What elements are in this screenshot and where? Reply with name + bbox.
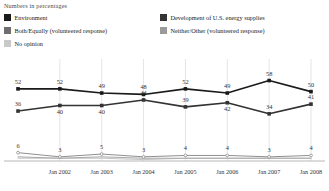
- data-label: 41: [308, 93, 314, 100]
- data-label: 3: [142, 146, 145, 153]
- data-label: 52: [182, 78, 188, 85]
- line-chart-svg: 5252494852495850364040443942344163534434: [0, 57, 329, 167]
- legend-row-1: Environment Development of U.S. energy s…: [4, 14, 325, 27]
- legend-swatch-development: [160, 14, 167, 21]
- x-axis-tick-label: Jan 2005: [174, 168, 196, 175]
- x-axis-tick-label: Jan 2003: [91, 168, 113, 175]
- legend-label-no-opinion: No opinion: [15, 40, 44, 47]
- plot-area: 5252494852495850364040443942344163534434: [0, 57, 329, 167]
- data-label: 49: [224, 82, 230, 89]
- data-label: 3: [58, 146, 61, 153]
- data-label: 52: [57, 78, 63, 85]
- legend-label-both-equally: Both/Equally (volunteered response): [15, 27, 108, 34]
- x-axis-tick-label: Jan 2002: [49, 168, 71, 175]
- x-axis-tick-label: Jan 2007: [258, 168, 280, 175]
- data-label: 49: [99, 82, 105, 89]
- legend-item-both-equally[interactable]: Both/Equally (volunteered response): [4, 27, 160, 34]
- legend-item-development[interactable]: Development of U.S. energy supplies: [160, 14, 320, 21]
- data-label: 4: [226, 144, 230, 151]
- chart-legend: Environment Development of U.S. energy s…: [4, 14, 325, 53]
- data-label: 5: [100, 143, 103, 150]
- data-label: 3: [268, 146, 271, 153]
- data-label: 4: [309, 144, 313, 151]
- data-label: 40: [99, 108, 105, 115]
- x-axis-labels: Jan 2002Jan 2003Jan 2004Jan 2005Jan 2006…: [0, 168, 329, 180]
- legend-swatch-environment: [4, 14, 11, 21]
- legend-label-environment: Environment: [15, 14, 48, 21]
- data-label: 50: [308, 81, 314, 88]
- chart-subtitle: Numbers in percentages: [4, 2, 67, 9]
- data-label: 6: [16, 142, 19, 149]
- data-label: 58: [266, 70, 272, 77]
- legend-item-neither-other[interactable]: Neither/Other (volunteered response): [160, 27, 320, 34]
- data-label: 42: [224, 105, 230, 112]
- legend-row-2: Both/Equally (volunteered response) Neit…: [4, 27, 325, 40]
- legend-swatch-both-equally: [4, 27, 11, 34]
- legend-swatch-no-opinion: [4, 40, 11, 47]
- legend-row-3: No opinion: [4, 40, 325, 53]
- data-label: 36: [15, 100, 21, 107]
- x-axis-tick-label: Jan 2008: [300, 168, 322, 175]
- data-label: 4: [184, 144, 188, 151]
- data-label: 39: [182, 96, 188, 103]
- chart-container: Numbers in percentages Environment Devel…: [0, 0, 329, 191]
- legend-label-neither-other: Neither/Other (volunteered response): [171, 27, 265, 34]
- legend-item-no-opinion[interactable]: No opinion: [4, 40, 160, 47]
- data-label: 40: [57, 108, 63, 115]
- legend-swatch-neither-other: [160, 27, 167, 34]
- data-label: 44: [140, 89, 147, 96]
- x-axis-tick-label: Jan 2006: [216, 168, 238, 175]
- legend-item-environment[interactable]: Environment: [4, 14, 160, 21]
- data-label: 52: [15, 78, 21, 85]
- data-label: 34: [266, 103, 273, 110]
- x-axis-tick-label: Jan 2004: [132, 168, 154, 175]
- legend-label-development: Development of U.S. energy supplies: [171, 14, 265, 21]
